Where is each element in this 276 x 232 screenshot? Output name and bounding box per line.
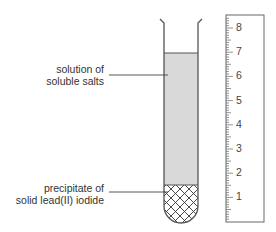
ruler-mark-7: 7	[236, 46, 242, 57]
solution-label-line2: soluble salts	[46, 75, 104, 87]
ruler-mark-2: 2	[236, 167, 242, 178]
ruler-mark-3: 3	[236, 143, 242, 154]
solution-label: solution of soluble salts	[46, 63, 104, 87]
ruler-mark-1: 1	[236, 191, 242, 202]
precipitate-label: precipitate of solid lead(II) iodide	[16, 182, 104, 206]
precipitate-label-line2: solid lead(II) iodide	[16, 194, 104, 206]
ruler-mark-8: 8	[236, 22, 242, 33]
solution-label-line1: solution of	[46, 63, 104, 75]
ruler-mark-6: 6	[236, 70, 242, 81]
ruler-mark-5: 5	[236, 95, 242, 106]
ruler	[226, 15, 264, 222]
precipitate-label-line1: precipitate of	[16, 182, 104, 194]
solution-liquid	[164, 53, 198, 185]
ruler-mark-4: 4	[236, 119, 242, 130]
